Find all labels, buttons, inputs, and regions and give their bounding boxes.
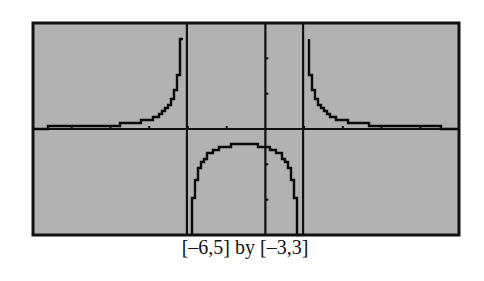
window-caption: [–6,5] by [–3,3] [0,236,484,259]
